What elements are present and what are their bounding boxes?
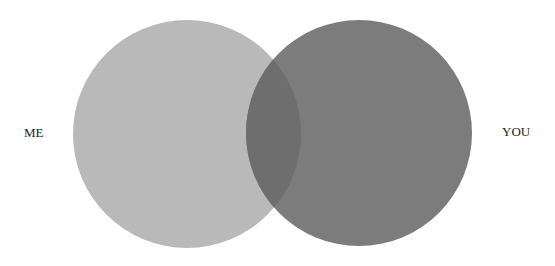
you-label: YOU (502, 124, 531, 139)
me-label: ME (24, 125, 44, 140)
venn-diagram: ME YOU (0, 0, 555, 266)
